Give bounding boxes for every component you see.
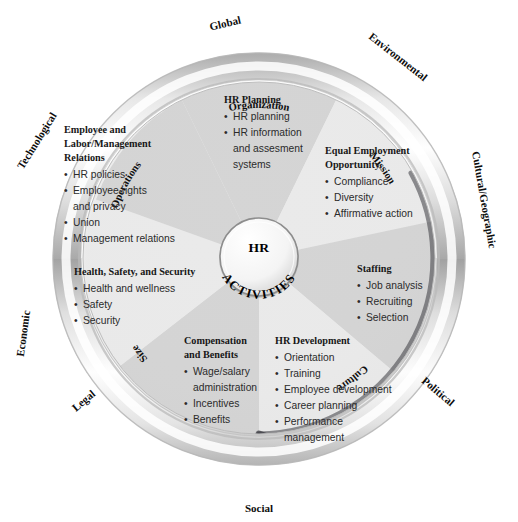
bullet-dot: •	[184, 366, 188, 377]
segment-title-line1: Employee and	[64, 124, 126, 135]
segment-bullet: Wage/salary	[193, 366, 251, 377]
segment-title-line1: Equal Employment	[325, 145, 410, 156]
segment-bullet: Job analysis	[366, 280, 423, 291]
segment-bullet: Employee development	[284, 384, 392, 395]
segment-title: HR Development	[275, 335, 351, 346]
env-label-economic: Economic	[14, 310, 32, 358]
segment-title-line1: Compensation	[184, 335, 247, 346]
segment-bullet: Recruiting	[366, 296, 413, 307]
env-label-cultural-geographic: Cultural/Geographic	[470, 150, 499, 249]
hr-wheel-graphic: HR ACTIVITIES Global Environmental Cultu…	[0, 0, 518, 522]
bullet-dot: •	[224, 111, 228, 122]
segment-bullet: Health and wellness	[83, 283, 175, 294]
segment-bullet: Management relations	[73, 233, 175, 244]
bullet-dot: •	[357, 296, 361, 307]
segment-title-line2: Labor/Management	[64, 138, 152, 149]
segment-bullet: Security	[83, 315, 121, 326]
segment-bullet: Affirmative action	[334, 208, 413, 219]
bullet-dot: •	[275, 368, 279, 379]
bullet-dot: •	[74, 283, 78, 294]
env-label-political: Political	[420, 374, 457, 408]
segment-title-line3: Relations	[64, 152, 105, 163]
segment-bullet: Incentives	[193, 398, 239, 409]
segment-bullet: Training	[284, 368, 321, 379]
hr-activities-diagram: HR ACTIVITIES Global Environmental Cultu…	[0, 0, 518, 522]
bullet-dot: •	[74, 315, 78, 326]
bullet-dot: •	[184, 414, 188, 425]
segment-bullet: Union	[73, 217, 100, 228]
segment-bullet: Compliance	[334, 176, 389, 187]
hub-title-hr: HR	[248, 240, 269, 255]
segment-bullet: and assesment	[233, 143, 303, 154]
segment-bullet: HR planning	[233, 111, 290, 122]
segment-bullet: Orientation	[284, 352, 335, 363]
segment-bullet: HR information	[233, 127, 302, 138]
segment-bullet: Safety	[83, 299, 113, 310]
segment-bullet: HR policies	[73, 169, 125, 180]
bullet-dot: •	[357, 280, 361, 291]
segment-title-line2: and Benefits	[184, 349, 238, 360]
segment-title-line2: Opportunity	[325, 159, 380, 170]
bullet-dot: •	[325, 208, 329, 219]
env-label-global: Global	[208, 14, 242, 33]
env-label-technological: Technological	[15, 110, 59, 171]
segment-bullet: Diversity	[334, 192, 374, 203]
segment-bullet: Benefits	[193, 414, 230, 425]
bullet-dot: •	[325, 192, 329, 203]
env-label-social: Social	[245, 502, 273, 514]
bullet-dot: •	[64, 169, 68, 180]
env-label-environmental: Environmental	[367, 30, 430, 83]
bullet-dot: •	[275, 400, 279, 411]
segment-title: Health, Safety, and Security	[74, 266, 195, 277]
segment-bullet: Selection	[366, 312, 409, 323]
bullet-dot: •	[357, 312, 361, 323]
segment-bullet: administration	[193, 382, 257, 393]
bullet-dot: •	[64, 185, 68, 196]
bullet-dot: •	[224, 127, 228, 138]
env-label-legal: Legal	[70, 387, 98, 413]
segment-bullet: Employee rights	[73, 185, 147, 196]
bullet-dot: •	[64, 217, 68, 228]
bullet-dot: •	[275, 352, 279, 363]
bullet-dot: •	[275, 416, 279, 427]
segment-bullet: and privacy	[73, 201, 127, 212]
segment-bullet: management	[284, 432, 344, 443]
bullet-dot: •	[184, 398, 188, 409]
segment-bullet: Performance	[284, 416, 343, 427]
segment-title: Staffing	[357, 263, 392, 274]
segment-title: HR Planning	[224, 94, 281, 105]
bullet-dot: •	[64, 233, 68, 244]
bullet-dot: •	[74, 299, 78, 310]
segment-bullet: systems	[233, 159, 271, 170]
bullet-dot: •	[325, 176, 329, 187]
segment-bullet: Career planning	[284, 400, 358, 411]
bullet-dot: •	[275, 384, 279, 395]
